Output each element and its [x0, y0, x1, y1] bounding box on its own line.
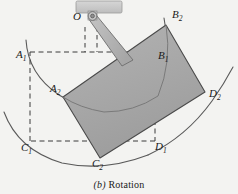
rotation-diagram [0, 0, 238, 194]
label-C2: C2 [92, 158, 103, 169]
label-D2: D2 [209, 88, 221, 99]
label-A2: A2 [50, 83, 60, 94]
label-pivot-O: O [73, 11, 81, 22]
pivot-joint-inner [91, 14, 95, 18]
label-D1: D1 [155, 141, 167, 152]
label-B1: B1 [158, 50, 168, 61]
label-C1: C1 [21, 142, 32, 153]
figure-caption: (b) Rotation [0, 179, 238, 190]
label-A1: A1 [16, 49, 26, 60]
caption-text: Rotation [108, 179, 144, 190]
label-B2: B2 [172, 9, 182, 20]
caption-prefix: (b) [93, 179, 105, 190]
ceiling-bracket [76, 1, 122, 13]
